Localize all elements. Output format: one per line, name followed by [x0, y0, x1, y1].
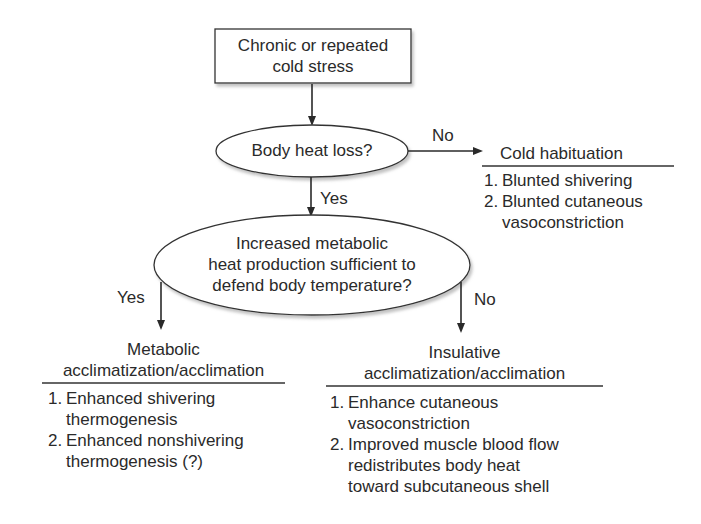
- decision-body-heat-loss: Body heat loss?: [216, 140, 408, 161]
- start-box-line2: cold stress: [215, 56, 411, 77]
- decision-metabolic-sufficient: Increased metabolic heat production suff…: [154, 233, 470, 296]
- list-item: 2. Improved muscle blood flow redistribu…: [330, 434, 559, 497]
- insulative-list: 1. Enhance cutaneous vasoconstriction 2.…: [330, 392, 559, 497]
- list-item: 1. Enhanced shivering thermogenesis: [48, 388, 244, 430]
- metabolic-list: 1. Enhanced shivering thermogenesis 2. E…: [48, 388, 244, 472]
- start-box: Chronic or repeated cold stress: [215, 35, 411, 77]
- cold-habituation-list: 1. Blunted shivering 2. Blunted cutaneou…: [484, 170, 643, 233]
- list-item: 1. Blunted shivering: [484, 170, 643, 191]
- decision1-no-label: No: [432, 125, 454, 146]
- list-item: 1. Enhance cutaneous vasoconstriction: [330, 392, 559, 434]
- decision2-yes-label: Yes: [117, 287, 145, 308]
- metabolic-title: Metabolic acclimatization/acclimation: [42, 339, 285, 381]
- decision2-no-label: No: [474, 289, 496, 310]
- insulative-title: Insulative acclimatization/acclimation: [326, 342, 603, 384]
- start-box-line1: Chronic or repeated: [215, 35, 411, 56]
- list-item: 2. Enhanced nonshivering thermogenesis (…: [48, 430, 244, 472]
- cold-habituation-title: Cold habituation: [500, 143, 623, 164]
- list-item: 2. Blunted cutaneous vasoconstriction: [484, 191, 643, 233]
- decision1-yes-label: Yes: [320, 188, 348, 209]
